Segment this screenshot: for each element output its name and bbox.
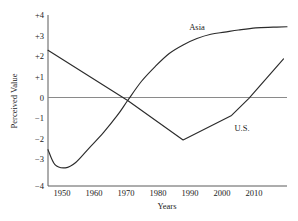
y-tick-label-2: +2	[35, 51, 44, 61]
series-label-asia: Asia	[189, 22, 205, 32]
x-tick-label-2000: 2000	[214, 188, 231, 198]
x-tick-label-1970: 1970	[118, 188, 135, 198]
line-chart: +4 +3 +2 +1 0 −1 −2 −3 −4 1950 1960 1970…	[0, 0, 298, 221]
y-tick-label-neg2: −2	[35, 134, 44, 144]
y-tick-label-1: +1	[35, 72, 44, 82]
x-tick-label-1950: 1950	[54, 188, 71, 198]
y-axis-title: Perceived Value	[9, 73, 19, 128]
y-tick-label-3: +3	[35, 31, 44, 41]
x-axis-title: Years	[158, 201, 177, 211]
x-tick-label-2010: 2010	[246, 188, 263, 198]
chart-figure: +4 +3 +2 +1 0 −1 −2 −3 −4 1950 1960 1970…	[0, 0, 298, 221]
y-tick-label-neg3: −3	[35, 154, 44, 164]
y-tick-label-neg4: −4	[35, 181, 45, 191]
y-tick-label-0: 0	[40, 93, 44, 103]
x-tick-label-1980: 1980	[150, 188, 167, 198]
x-tick-label-1990: 1990	[182, 188, 199, 198]
y-tick-label-4: +4	[35, 10, 45, 20]
series-label-us: U.S.	[234, 123, 249, 133]
y-tick-label-neg1: −1	[35, 113, 44, 123]
x-tick-label-1960: 1960	[86, 188, 103, 198]
